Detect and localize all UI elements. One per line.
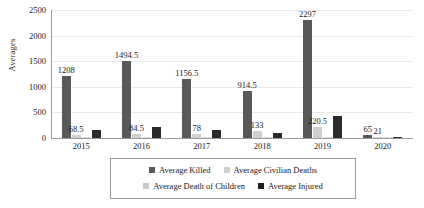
y-tick-label: 1500 [2,56,46,66]
bar[interactable] [132,134,141,138]
x-tick-label: 2017 [172,141,232,151]
bar-chart: Averages 05001000150020002500 120868.514… [0,0,424,208]
legend-label: Average Civilian Deaths [234,165,317,175]
bar-group-bars [111,10,171,138]
bar[interactable] [152,127,161,138]
x-tick-label: 2016 [111,141,171,151]
legend-item[interactable]: Average Death of Children [143,181,245,191]
legend-item[interactable]: Average Civilian Deaths [224,165,317,175]
bar[interactable] [92,130,101,138]
bar[interactable] [192,134,201,138]
bar[interactable] [273,133,282,138]
bar-value-label: 220.5 [308,116,327,126]
bar[interactable] [202,137,211,138]
bar[interactable] [253,131,262,138]
legend-item[interactable]: Average Injured [258,181,323,191]
bar[interactable] [182,79,191,138]
legend-swatch-icon [224,167,230,173]
bar-group: 914.5133 [232,10,292,138]
x-tick-label: 2015 [51,141,111,151]
x-tick-label: 2019 [292,141,352,151]
bar-group-bars [353,10,413,138]
bar-value-label: 914.5 [238,80,257,90]
y-tick-label: 2000 [2,31,46,41]
x-axis-tick-labels: 201520162017201820192020 [51,141,413,151]
legend-label: Average Killed [159,165,211,175]
y-tick-label: 500 [2,107,46,117]
bar-value-label: 68.5 [69,124,84,134]
bar[interactable] [383,137,392,138]
bar-groups: 120868.51494.584.51156.578914.5133229722… [51,10,413,138]
bar-value-label: 1494.5 [115,50,138,60]
bar-value-label: 1208 [58,65,75,75]
bar-value-label: 1156.5 [175,68,198,78]
bar-value-label: 2297 [299,9,316,19]
bar[interactable] [82,137,91,138]
legend-swatch-icon [143,183,149,189]
bar-value-label: 21 [374,126,383,136]
bar[interactable] [243,91,252,138]
bar-group: 1494.584.5 [111,10,171,138]
legend-swatch-icon [149,167,155,173]
bar-group: 6521 [353,10,413,138]
y-tick-label: 2500 [2,5,46,15]
bar[interactable] [363,135,372,138]
bar-group: 120868.5 [51,10,111,138]
legend-label: Average Injured [268,181,323,191]
x-tick-label: 2020 [353,141,413,151]
bar-group-bars [232,10,292,138]
y-axis-tick-labels: 05001000150020002500 [0,10,46,138]
bar[interactable] [142,137,151,138]
bar[interactable] [333,116,342,138]
bar-group: 2297220.5 [292,10,352,138]
y-tick-label: 1000 [2,82,46,92]
bar[interactable] [393,137,402,138]
bar-value-label: 84.5 [129,123,144,133]
bar[interactable] [323,137,332,138]
legend-row: Average KilledAverage Civilian Deaths [117,162,349,178]
legend-row: Average Death of ChildrenAverage Injured [117,178,349,194]
x-tick-label: 2018 [232,141,292,151]
legend-item[interactable]: Average Killed [149,165,211,175]
x-axis-line [51,138,413,139]
bar[interactable] [72,135,81,139]
bar-value-label: 133 [251,120,264,130]
bar[interactable] [263,137,272,138]
bar[interactable] [373,137,382,138]
bar-value-label: 65 [364,124,373,134]
legend-label: Average Death of Children [153,181,245,191]
legend-swatch-icon [258,183,264,189]
bar[interactable] [313,127,322,138]
bar[interactable] [212,130,221,138]
bar-value-label: 78 [193,123,202,133]
chart-legend: Average KilledAverage Civilian DeathsAve… [110,158,356,199]
bar-group: 1156.578 [172,10,232,138]
y-tick-label: 0 [2,133,46,143]
